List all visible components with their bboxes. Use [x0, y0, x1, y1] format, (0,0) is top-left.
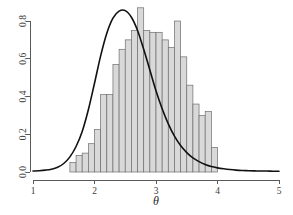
histogram-bar [205, 112, 211, 172]
histogram-bar [107, 95, 113, 172]
y-axis-tick-label: 0.8 [18, 15, 28, 27]
histogram-bar [168, 47, 174, 172]
histogram-bar [82, 153, 88, 172]
histogram-bar [150, 32, 156, 172]
histogram-density-plot: 12345 0.00.20.40.60.8 θ [0, 0, 293, 215]
x-axis-tick-label: 2 [92, 186, 97, 196]
histogram-bar [88, 144, 94, 172]
histogram-bar [119, 49, 125, 172]
histogram-bar [95, 130, 101, 172]
histogram-bar [101, 95, 107, 172]
y-axis-tick-label: 0.0 [18, 166, 28, 178]
histogram-bar [131, 30, 137, 172]
x-axis-tick-label: 4 [215, 186, 220, 196]
histogram-bar [187, 85, 193, 172]
histogram-bar [181, 57, 187, 172]
y-axis-tick-label: 0.4 [18, 90, 28, 102]
histogram-bar [113, 64, 119, 172]
x-axis-tick-label: 1 [31, 186, 36, 196]
y-axis-tick-label: 0.6 [18, 53, 28, 65]
chart-canvas: 12345 0.00.20.40.60.8 θ [0, 0, 293, 215]
y-axis: 0.00.20.40.60.8 [18, 15, 30, 178]
histogram-bar [162, 40, 168, 172]
x-axis-tick-label: 5 [277, 186, 282, 196]
x-axis-title: θ [153, 194, 159, 208]
histogram-bar [76, 155, 82, 172]
histogram-bar [174, 21, 180, 172]
y-axis-tick-label: 0.2 [18, 128, 28, 140]
histogram-bar [125, 40, 131, 172]
histogram-bars [70, 8, 218, 172]
histogram-bar [70, 163, 76, 172]
